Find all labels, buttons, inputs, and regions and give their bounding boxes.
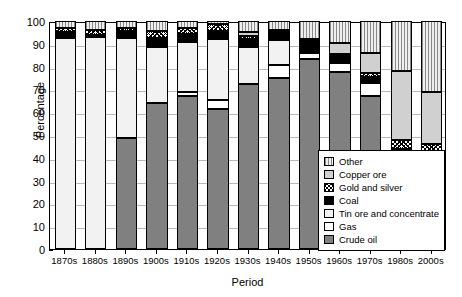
y-tick-mark: [49, 250, 53, 251]
x-tick-label: 1980s: [385, 256, 416, 266]
stacked-bar[interactable]: [85, 21, 106, 249]
bar-segment[interactable]: [207, 21, 228, 24]
bar-segment[interactable]: [391, 71, 412, 139]
bar-segment[interactable]: [391, 21, 412, 71]
bar-segment[interactable]: [207, 109, 228, 249]
bar-segment[interactable]: [329, 43, 350, 54]
bar-segment[interactable]: [329, 54, 350, 63]
bar-segment[interactable]: [177, 92, 198, 97]
bar-segment[interactable]: [85, 21, 106, 30]
bar-segment[interactable]: [85, 35, 106, 37]
legend-label: Gold and silver: [339, 183, 402, 193]
bar-segment[interactable]: [299, 21, 320, 39]
stacked-bar[interactable]: [238, 21, 259, 249]
legend-swatch-icon: [324, 196, 334, 205]
bar-segment[interactable]: [146, 21, 167, 31]
bar-segment[interactable]: [116, 138, 137, 249]
bar-segment[interactable]: [177, 96, 198, 249]
y-tick-label: 80: [5, 63, 45, 74]
bar-segment[interactable]: [55, 38, 76, 249]
bar-segment[interactable]: [299, 53, 320, 59]
stacked-bar[interactable]: [177, 21, 198, 249]
x-tick-label: 1960s: [324, 256, 355, 266]
y-tick-label: 90: [5, 40, 45, 51]
legend-label: Copper ore: [339, 170, 387, 180]
stacked-bar[interactable]: [55, 21, 76, 249]
bar-segment[interactable]: [268, 21, 289, 30]
bar-segment[interactable]: [391, 140, 412, 149]
bar-segment[interactable]: [207, 24, 228, 31]
x-tick-label: 1870s: [49, 256, 80, 266]
legend-item[interactable]: Gas: [324, 220, 440, 233]
legend-item[interactable]: Crude oil: [324, 233, 440, 246]
bar-segment[interactable]: [268, 78, 289, 249]
bar-segment[interactable]: [55, 21, 76, 28]
legend-label: Gas: [339, 222, 356, 232]
bar-segment[interactable]: [268, 40, 289, 65]
y-tick-label: 10: [5, 222, 45, 233]
y-tick-label: 60: [5, 108, 45, 119]
bar-segment[interactable]: [238, 32, 259, 35]
legend-swatch-icon: [324, 157, 334, 166]
bar-segment[interactable]: [146, 103, 167, 249]
bar-segment[interactable]: [421, 92, 442, 144]
legend-label: Tin ore and concentrate: [339, 209, 439, 219]
bar-segment[interactable]: [238, 36, 259, 39]
x-tick-label: 1920s: [202, 256, 233, 266]
x-tick-mark: [278, 250, 279, 254]
y-tick-label: 50: [5, 131, 45, 142]
y-tick-label: 70: [5, 85, 45, 96]
x-tick-label: 1950s: [293, 256, 324, 266]
legend-item[interactable]: Other: [324, 155, 440, 168]
x-tick-label: 1880s: [80, 256, 111, 266]
x-tick-mark: [125, 250, 126, 254]
bar-segment[interactable]: [116, 28, 137, 31]
bar-segment[interactable]: [55, 32, 76, 38]
stacked-bar[interactable]: [207, 21, 228, 249]
bar-segment[interactable]: [360, 53, 381, 74]
bar-segment[interactable]: [177, 42, 198, 92]
bar-segment[interactable]: [238, 47, 259, 83]
stacked-bar[interactable]: [116, 21, 137, 249]
bar-segment[interactable]: [238, 84, 259, 249]
bar-segment[interactable]: [85, 37, 106, 249]
bar-segment[interactable]: [116, 38, 137, 138]
bar-segment[interactable]: [85, 30, 106, 35]
bar-segment[interactable]: [421, 21, 442, 92]
bar-segment[interactable]: [207, 31, 228, 39]
legend-item[interactable]: Coal: [324, 194, 440, 207]
bar-segment[interactable]: [55, 28, 76, 33]
bar-segment[interactable]: [238, 39, 259, 47]
bar-segment[interactable]: [146, 38, 167, 47]
bar-segment[interactable]: [268, 65, 289, 78]
legend-item[interactable]: Tin ore and concentrate: [324, 207, 440, 220]
bar-segment[interactable]: [207, 39, 228, 99]
bar-segment[interactable]: [146, 31, 167, 38]
bar-segment[interactable]: [116, 21, 137, 28]
y-tick-label: 100: [5, 17, 45, 28]
bar-segment[interactable]: [177, 34, 198, 42]
bar-segment[interactable]: [360, 83, 381, 97]
stacked-bar[interactable]: [146, 21, 167, 249]
bar-segment[interactable]: [360, 77, 381, 83]
bar-segment[interactable]: [177, 28, 198, 34]
bar-segment[interactable]: [116, 31, 137, 38]
bar-segment[interactable]: [329, 21, 350, 43]
bar-segment[interactable]: [360, 73, 381, 76]
x-tick-label: 1970s: [354, 256, 385, 266]
legend-item[interactable]: Copper ore: [324, 168, 440, 181]
bar-segment[interactable]: [177, 21, 198, 28]
bar-segment[interactable]: [360, 21, 381, 53]
bar-segment[interactable]: [299, 39, 320, 53]
legend-item[interactable]: Gold and silver: [324, 181, 440, 194]
bar-segment[interactable]: [238, 21, 259, 32]
legend-swatch-icon: [324, 170, 334, 179]
x-tick-mark: [95, 250, 96, 254]
x-tick-mark: [309, 250, 310, 254]
bar-segment[interactable]: [268, 30, 289, 40]
stacked-bar[interactable]: [268, 21, 289, 249]
bar-segment[interactable]: [146, 47, 167, 103]
bar-segment[interactable]: [207, 100, 228, 109]
bar-segment[interactable]: [329, 63, 350, 72]
legend-swatch-icon: [324, 235, 334, 244]
